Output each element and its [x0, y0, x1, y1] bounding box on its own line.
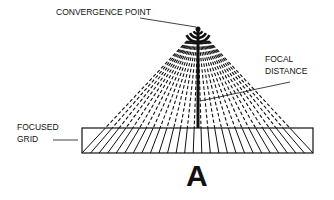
focal-ray-dashed [153, 41, 192, 128]
focal-ray-dashed [204, 41, 249, 128]
focal-label-line1: FOCAL [265, 54, 294, 64]
grid-strip-line [269, 128, 287, 153]
grid-strip-line [249, 128, 262, 153]
focal-ray-dashed [203, 41, 242, 128]
grid-strip-line [208, 128, 210, 153]
convergence-leader-line [140, 18, 196, 27]
grid-label-line2: GRID [17, 134, 38, 144]
focal-ray-dashed [133, 41, 190, 128]
grid-strips [82, 128, 313, 153]
focal-ray-dashed [206, 41, 263, 128]
grid-strip-line [228, 128, 236, 153]
grid-strip-line [159, 128, 167, 153]
grid-strip-line [215, 128, 219, 153]
focused-grid-diagram: CONVERGENCE POINT FOCAL DISTANCE FOCUSED… [0, 0, 334, 200]
grid-strip-line [262, 128, 278, 153]
grid-strip-line [125, 128, 140, 153]
grid-strip-line [193, 128, 194, 153]
panel-letter: A [186, 159, 208, 192]
focal-distance-leader-line [200, 82, 290, 101]
convergence-point-label: CONVERGENCE POINT [56, 7, 151, 17]
convergence-point-marker [196, 27, 201, 32]
grid-strip-line [176, 128, 180, 153]
grid-strip-line [116, 128, 132, 153]
focal-ray-dashed [126, 41, 189, 128]
focal-ray-dashed [167, 41, 194, 128]
focal-ray-dashed [207, 41, 270, 128]
grid-strip-line [222, 128, 228, 153]
focal-ray-dashed [105, 41, 186, 128]
grid-strip-line [185, 128, 188, 153]
grid-strip-line [256, 128, 271, 153]
grid-label-line1: FOCUSED [17, 122, 59, 132]
focal-label-line2: DISTANCE [265, 66, 308, 76]
grid-strip-line [108, 128, 126, 153]
grid-strip-line [168, 128, 174, 153]
focal-ray-dashed [202, 41, 229, 128]
focal-ray-dashed [146, 41, 191, 128]
grid-strip-line [133, 128, 146, 153]
grid-strip-line [201, 128, 202, 153]
